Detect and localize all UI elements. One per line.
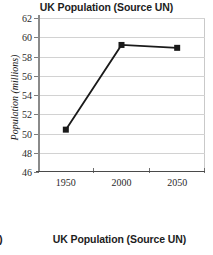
figure2-list-marker: i) — [0, 233, 3, 245]
y-tick-label: 52 — [22, 109, 32, 120]
data-point-marker — [119, 42, 125, 48]
data-series-line — [38, 18, 205, 172]
y-tick-label: 50 — [22, 128, 32, 139]
series-polyline — [66, 45, 177, 130]
y-tick-label: 62 — [22, 13, 32, 24]
figure2-title: UK Population (Source UN) — [26, 233, 213, 245]
x-tick-label: 1950 — [56, 177, 76, 188]
y-tick-label: 58 — [22, 51, 32, 62]
y-axis-label: Population (millions) — [9, 23, 20, 173]
figure-page: UK Population (Source UN) Population (mi… — [0, 0, 213, 255]
chart-title: UK Population (Source UN) — [0, 1, 213, 13]
y-tick-label: 56 — [22, 70, 32, 81]
data-point-marker — [174, 45, 180, 51]
x-tick-label: 2000 — [112, 177, 132, 188]
x-tick-label: 2050 — [167, 177, 187, 188]
data-point-marker — [63, 127, 69, 133]
population-line-chart: UK Population (Source UN) Population (mi… — [0, 0, 213, 200]
y-tick-label: 54 — [22, 90, 32, 101]
second-chart-header: i) UK Population (Source UN) — [0, 200, 213, 255]
y-tick-label: 46 — [22, 167, 32, 178]
y-tick-label: 60 — [22, 32, 32, 43]
y-tick-label: 48 — [22, 147, 32, 158]
plot-area: 464850525456586062 195020002050 — [38, 18, 205, 172]
